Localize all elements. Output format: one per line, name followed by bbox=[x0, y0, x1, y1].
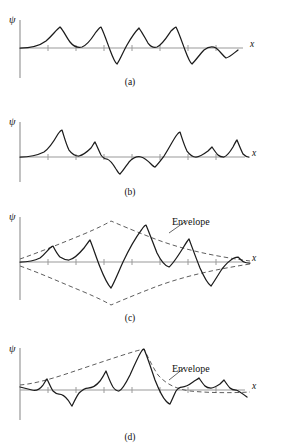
panel-c-wave-curve bbox=[20, 225, 250, 288]
panel-d-xlabel: x bbox=[251, 381, 257, 391]
panel-b-plot: ψ x (b) bbox=[0, 100, 282, 205]
panel-b-xlabel: x bbox=[251, 148, 257, 158]
panel-d-caption: (d) bbox=[124, 432, 135, 443]
panel-c-envelope-label: Envelope bbox=[172, 216, 210, 227]
panel-b-caption: (b) bbox=[124, 187, 135, 198]
panel-a: ψ x (a) bbox=[0, 0, 282, 100]
panel-b-ylabel: ψ bbox=[9, 116, 16, 127]
panel-c-envelope-upper bbox=[20, 221, 250, 261]
panel-c-caption: (c) bbox=[125, 313, 136, 324]
panel-b: ψ x (b) bbox=[0, 100, 282, 205]
panel-c-envelope-lower bbox=[20, 264, 250, 305]
panel-d-plot: Envelope ψ x (d) bbox=[0, 330, 282, 448]
panel-b-wave-curve bbox=[20, 130, 249, 174]
panel-a-caption: (a) bbox=[125, 77, 136, 88]
panel-d-envelope-label: Envelope bbox=[172, 363, 210, 374]
panel-a-xlabel: x bbox=[249, 39, 255, 49]
wavefunction-figure: ψ x (a) ψ x (b) bbox=[0, 0, 282, 448]
panel-c-xlabel: x bbox=[251, 253, 257, 263]
panel-d-wave-curve bbox=[20, 349, 247, 406]
panel-c-ylabel: ψ bbox=[9, 211, 16, 222]
panel-d-ylabel: ψ bbox=[9, 343, 16, 354]
panel-a-ylabel: ψ bbox=[9, 14, 16, 25]
panel-d: Envelope ψ x (d) bbox=[0, 330, 282, 448]
panel-a-wave-curve bbox=[20, 27, 238, 64]
panel-a-plot: ψ x (a) bbox=[0, 0, 282, 100]
panel-c-plot: Envelope ψ x (c) bbox=[0, 205, 282, 330]
panel-c: Envelope ψ x (c) bbox=[0, 205, 282, 330]
